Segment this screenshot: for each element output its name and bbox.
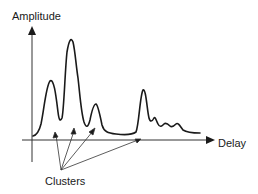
clusters-label: Clusters bbox=[45, 176, 85, 187]
arrowhead-icon bbox=[89, 128, 95, 135]
diagram-canvas: Amplitude Delay Clusters bbox=[0, 0, 258, 194]
y-axis bbox=[28, 26, 36, 162]
diagram-svg bbox=[0, 0, 258, 194]
waveform-curve bbox=[33, 40, 200, 136]
arrowhead-icon bbox=[135, 139, 141, 143]
y-axis-arrowhead-icon bbox=[28, 26, 36, 35]
x-axis-label: Delay bbox=[218, 138, 246, 149]
arrowhead-icon bbox=[53, 132, 58, 138]
arrowhead-icon bbox=[71, 128, 76, 134]
y-axis-label: Amplitude bbox=[12, 11, 61, 22]
x-axis-arrowhead-icon bbox=[206, 136, 215, 144]
cluster-arrow-2 bbox=[61, 131, 74, 170]
x-axis bbox=[22, 136, 215, 144]
cluster-arrow-4 bbox=[61, 140, 138, 170]
